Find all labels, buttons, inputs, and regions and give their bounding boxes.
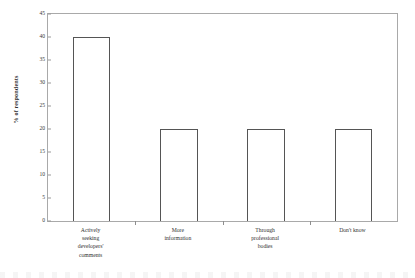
x-axis-category-label-line: information: [134, 234, 221, 242]
x-axis-tick-mark: [135, 221, 136, 225]
y-axis-tick-label: 0: [42, 218, 45, 224]
y-axis-tick-label: 30: [39, 80, 45, 86]
x-axis-category-label: Moreinformation: [134, 226, 221, 242]
y-axis-tick-label: 40: [39, 34, 45, 40]
y-axis-tick-label: 15: [39, 149, 45, 155]
x-axis-category-label-line: developers': [47, 242, 134, 250]
bar: [160, 129, 198, 221]
x-axis-tick-mark: [310, 221, 311, 225]
x-axis-category-label-line: Through: [222, 226, 309, 234]
x-axis-category-label: Don't know: [309, 226, 396, 234]
x-axis-category-label-line: bodies: [222, 242, 309, 250]
bar: [73, 37, 111, 221]
y-axis-tick-label: 10: [39, 172, 45, 178]
y-axis-tick-label: 25: [39, 103, 45, 109]
y-axis-tick-label: 20: [39, 126, 45, 132]
x-axis-category-label-line: comments: [47, 251, 134, 259]
bar: [247, 129, 285, 221]
y-axis-tick-label: 45: [39, 11, 45, 17]
y-axis-tick-label: 35: [39, 57, 45, 63]
x-axis-tick-mark: [223, 221, 224, 225]
y-axis-title: % of respondents: [12, 55, 19, 145]
scan-edge-artifact: [0, 272, 415, 278]
x-axis-category-label-line: Don't know: [309, 226, 396, 234]
bar-chart: % of respondents 051015202530354045 Acti…: [0, 0, 415, 278]
x-axis-category-label-line: More: [134, 226, 221, 234]
x-axis-category-label: Throughprofessionalbodies: [222, 226, 309, 251]
x-axis-category-label-line: professional: [222, 234, 309, 242]
x-axis-category-label-line: seeking: [47, 234, 134, 242]
x-axis-category-labels: Activelyseekingdevelopers'commentsMorein…: [47, 226, 398, 274]
plot-area: 051015202530354045: [47, 13, 398, 222]
bar: [335, 129, 373, 221]
x-axis-category-label: Activelyseekingdevelopers'comments: [47, 226, 134, 259]
x-axis-category-label-line: Actively: [47, 226, 134, 234]
bar-series: [48, 14, 397, 221]
y-axis-tick-label: 5: [42, 195, 45, 201]
